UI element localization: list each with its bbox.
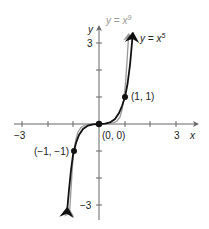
y-axis-label: y <box>87 24 94 35</box>
point-neg1-label: (−1, −1) <box>34 146 69 157</box>
y-tick-label-neg3: −3 <box>80 200 92 211</box>
x-tick-label-neg3: −3 <box>14 130 26 141</box>
x-axis-label: x <box>189 130 196 141</box>
curve-x9-label: y = x9 <box>105 14 131 26</box>
point-origin-label: (0, 0) <box>102 130 125 141</box>
x-tick-label-3: 3 <box>174 130 180 141</box>
point-pos1 <box>122 94 128 100</box>
curve-x5-label: y = x5 <box>139 32 165 44</box>
power-function-graph: −3 3 x 3 −3 y y = x9 y = x5 (1, 1) (0, 0… <box>0 0 209 229</box>
point-pos1-label: (1, 1) <box>131 91 154 102</box>
point-neg1 <box>71 148 77 154</box>
point-origin <box>96 121 102 127</box>
y-tick-label-3: 3 <box>87 38 93 49</box>
